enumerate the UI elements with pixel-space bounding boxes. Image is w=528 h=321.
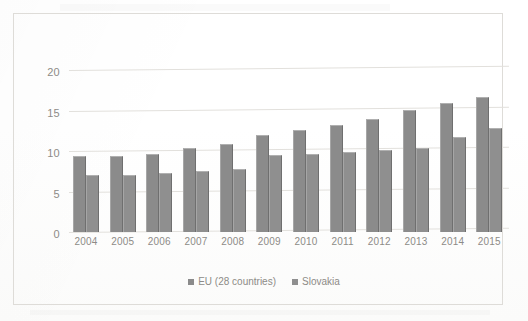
y-axis-tick-label: 10 [47,147,60,159]
y-axis-tick-label: 20 [47,66,60,78]
scan-artifact [60,4,390,11]
bar-group [366,54,396,232]
bar-eu[interactable] [330,125,343,232]
bar-slovakia[interactable] [269,155,282,232]
bar-eu[interactable] [293,130,306,232]
x-axis-tick-label: 2010 [289,236,323,247]
bar-eu[interactable] [440,103,453,232]
chart-frame: 05101520 2004200520062007200820092010201… [13,13,503,305]
bar-eu[interactable] [73,156,86,232]
y-axis-tick-label: 0 [54,228,60,240]
x-axis-tick-label: 2009 [252,236,286,247]
bar-group [183,54,213,232]
bar-slovakia[interactable] [453,137,466,232]
x-axis-tick-label: 2004 [69,236,103,247]
bar-slovakia[interactable] [306,154,319,232]
x-axis-tick-label: 2008 [216,236,250,247]
x-axis-tick-label: 2012 [362,236,396,247]
bar-group [256,54,286,232]
legend-item[interactable]: Slovakia [292,276,340,287]
bar-eu[interactable] [366,119,379,232]
legend-item[interactable]: EU (28 countries) [188,276,276,287]
bar-eu[interactable] [146,154,159,232]
chart-legend: EU (28 countries)Slovakia [0,276,528,287]
legend-label: EU (28 countries) [198,276,276,287]
bar-slovakia[interactable] [489,128,502,232]
bar-slovakia[interactable] [123,175,136,232]
bar-slovakia[interactable] [159,173,172,232]
bar-slovakia[interactable] [86,175,99,232]
bar-group [403,54,433,232]
bar-slovakia[interactable] [196,171,209,232]
scan-artifact [30,310,490,315]
bar-eu[interactable] [220,144,233,232]
x-axis-tick-label: 2014 [436,236,470,247]
bar-eu[interactable] [256,135,269,232]
bar-group [330,54,360,232]
bar-eu[interactable] [183,148,196,232]
bar-eu[interactable] [110,156,123,232]
bar-series-container [69,54,509,232]
x-axis-tick-label: 2007 [179,236,213,247]
bar-group [110,54,140,232]
bar-eu[interactable] [403,110,416,232]
bar-slovakia[interactable] [379,150,392,232]
x-axis-tick-label: 2015 [472,236,506,247]
x-axis-tick-label: 2013 [399,236,433,247]
bar-slovakia[interactable] [233,169,246,232]
y-axis-tick-label: 5 [54,187,60,199]
bar-slovakia[interactable] [416,148,429,232]
bar-group [476,54,506,232]
legend-label: Slovakia [302,276,340,287]
x-axis-tick-label: 2006 [142,236,176,247]
bar-group [220,54,250,232]
bar-slovakia[interactable] [343,152,356,232]
bar-group [440,54,470,232]
bar-group [73,54,103,232]
chart-page: 05101520 2004200520062007200820092010201… [0,0,528,321]
bar-group [146,54,176,232]
plot-area: 05101520 2004200520062007200820092010201… [69,54,509,232]
x-axis-tick-label: 2011 [326,236,360,247]
y-axis-tick-label: 15 [47,106,60,118]
bar-group [293,54,323,232]
bar-eu[interactable] [476,97,489,232]
x-axis-tick-label: 2005 [106,236,140,247]
legend-swatch-icon [188,279,194,285]
legend-swatch-icon [292,279,298,285]
